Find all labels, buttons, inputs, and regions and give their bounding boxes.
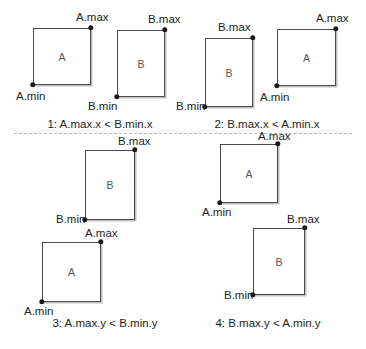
case-1-rect-a-min-dot — [30, 82, 35, 87]
case-1-rect-b-max-dot — [162, 27, 167, 32]
case-3-rect-a-max-label: A.max — [85, 228, 118, 240]
case-1-rect-a-min-label: A.min — [16, 91, 45, 103]
case-3-rect-a: A — [42, 242, 101, 302]
case-3-rect-b-min-label: B.min — [56, 214, 85, 226]
case-1-rect-a-max-dot — [88, 25, 93, 30]
case-2-rect-a-letter: A — [278, 52, 335, 63]
case-2-rect-a-max-dot — [333, 26, 338, 31]
case-4-rect-b-letter: B — [254, 256, 304, 267]
case-4-rect-a-max-label: A.max — [258, 131, 291, 143]
case-1-rect-b-min-label: B.min — [88, 101, 117, 113]
case-1-rect-b: B — [117, 30, 165, 97]
case-3-rect-b-max-dot — [132, 147, 137, 152]
case-3-rect-a-min-dot — [39, 299, 44, 304]
case-2-rect-a-min-label: A.min — [260, 92, 289, 104]
case-2-rect-b: B — [205, 38, 253, 107]
case-4-rect-b: B — [253, 228, 305, 295]
case-2-rect-b-max-label: B.max — [218, 22, 251, 34]
case-1-caption: 1: A.max.x < B.min.x — [47, 119, 152, 131]
case-4-rect-b-max-dot — [302, 225, 307, 230]
case-1-rect-a-max-label: A.max — [76, 12, 109, 24]
aabb-separation-cases-figure: A A.max A.min B B.max B.min 1: A.max.x <… — [0, 0, 366, 349]
case-3-rect-b-max-label: B.max — [118, 136, 151, 148]
section-divider — [14, 133, 352, 134]
case-1-rect-b-min-dot — [114, 94, 119, 99]
case-2-rect-a-min-dot — [274, 83, 279, 88]
case-1-rect-b-letter: B — [118, 58, 164, 69]
case-3-caption: 3: A.max.y < B.min.y — [52, 318, 157, 330]
case-2-rect-b-max-dot — [250, 35, 255, 40]
case-2-rect-b-min-label: B.min — [176, 101, 205, 113]
case-4-caption: 4: B.max.y < A.min.y — [215, 318, 320, 330]
case-3-rect-b-letter: B — [86, 180, 134, 191]
case-1-rect-a-letter: A — [34, 51, 90, 62]
case-4-rect-a-min-dot — [217, 200, 222, 205]
case-4-rect-a-letter: A — [221, 168, 277, 179]
case-3-rect-a-max-dot — [98, 239, 103, 244]
case-3-rect-a-min-label: A.min — [24, 306, 53, 318]
case-2-rect-a: A — [277, 29, 336, 86]
case-3-rect-b: B — [85, 150, 135, 220]
case-2-caption: 2: B.max.x < A.min.x — [214, 119, 319, 131]
case-4-rect-b-min-label: B.min — [224, 290, 253, 302]
case-1-rect-b-max-label: B.max — [148, 14, 181, 26]
case-4-rect-a: A — [220, 144, 278, 203]
case-4-rect-a-min-label: A.min — [202, 207, 231, 219]
case-1-rect-a: A — [33, 28, 91, 85]
case-2-rect-a-max-label: A.max — [316, 13, 349, 25]
case-3-rect-a-letter: A — [43, 267, 100, 278]
case-2-rect-b-letter: B — [206, 67, 252, 78]
case-4-rect-b-max-label: B.max — [287, 214, 320, 226]
